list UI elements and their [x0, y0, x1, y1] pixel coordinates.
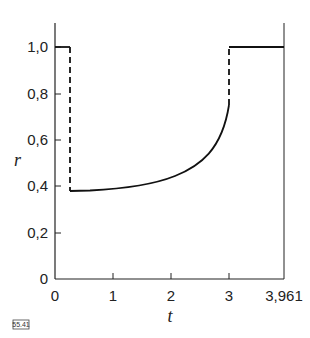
y-axis-title: r [14, 150, 22, 170]
y-tick-label: 0 [40, 270, 48, 287]
x-tick-label: 1 [109, 287, 117, 304]
segment-rising-curve [70, 105, 229, 191]
y-ticks [55, 47, 61, 233]
x-ticks [113, 273, 229, 279]
data-curve [55, 47, 284, 191]
y-tick-label: 0,6 [27, 131, 48, 148]
y-tick-label: 0,2 [27, 224, 48, 241]
y-tick-label: 1,0 [27, 38, 48, 55]
x-tick-label: 0 [51, 287, 59, 304]
x-tick-label: 3,961 [265, 287, 303, 304]
y-tick-label: 0,8 [27, 85, 48, 102]
chart: 0 0,2 0,4 0,6 0,8 1,0 0 1 2 3 3,961 r t … [0, 0, 310, 338]
x-tick-label: 3 [225, 287, 233, 304]
x-tick-label: 2 [167, 287, 175, 304]
y-tick-label: 0,4 [27, 177, 48, 194]
figure-id: 55.41 [12, 321, 30, 328]
x-axis-title: t [167, 306, 173, 326]
